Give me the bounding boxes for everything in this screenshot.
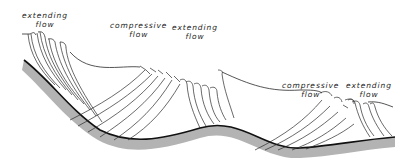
glacier-surface-right: [368, 102, 393, 107]
label-extending-flow-2: extending flow: [172, 24, 218, 41]
label-line2: flow: [172, 33, 218, 42]
label-line2: flow: [346, 91, 392, 100]
label-line2: flow: [282, 91, 339, 100]
label-extending-flow-3: extending flow: [346, 82, 392, 99]
crevasses-extending-right: [345, 99, 392, 137]
label-line2: flow: [22, 21, 68, 30]
label-compressive-flow-2: compressive flow: [282, 82, 339, 99]
crevasses-extending-middle: [180, 70, 234, 128]
label-line2: flow: [110, 31, 167, 40]
label-extending-flow-1: extending flow: [22, 12, 68, 29]
label-compressive-flow-1: compressive flow: [110, 22, 167, 39]
